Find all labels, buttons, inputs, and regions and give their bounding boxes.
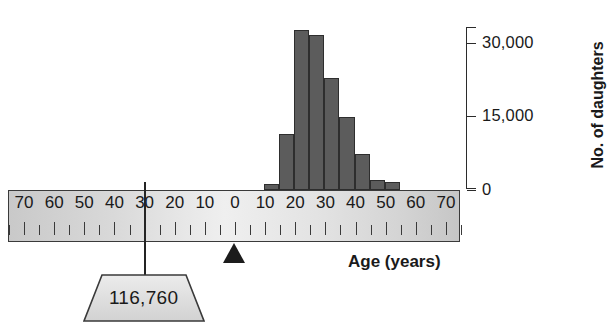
ruler-number: 40: [105, 194, 124, 211]
fulcrum-pivot-triangle-icon: [223, 243, 245, 263]
ruler-tick-minor: [371, 225, 372, 235]
ruler-tick-minor: [431, 225, 432, 235]
weight-value-label: 116,760: [83, 274, 205, 322]
ruler-tick-major: [295, 222, 296, 235]
ruler-tick-minor: [160, 225, 161, 235]
histogram-bar: [370, 180, 385, 190]
ruler-number: 60: [45, 194, 64, 211]
ruler-tick-minor: [39, 225, 40, 235]
histogram-bar: [385, 182, 400, 190]
ruler-tick-major: [416, 222, 417, 235]
ruler-tick-minor: [310, 225, 311, 235]
ruler-tick-major: [24, 222, 25, 235]
ruler-tick-minor: [190, 225, 191, 235]
fulcrum-stem: [144, 182, 146, 278]
histogram-bar: [294, 30, 309, 190]
ruler-tick-major: [175, 222, 176, 235]
ruler-number: 50: [75, 194, 94, 211]
x-axis-title: Age (years): [348, 252, 441, 272]
ruler-tick-major: [265, 222, 266, 235]
ruler-number: 0: [230, 194, 239, 211]
ruler-tick-major: [325, 222, 326, 235]
ruler-tick-major: [205, 222, 206, 235]
ruler-number: 70: [436, 194, 455, 211]
ruler-tick-major: [235, 222, 236, 235]
ruler-number: 10: [256, 194, 275, 211]
balance-beam-ruler: 70605040302010010203040506070: [8, 190, 460, 242]
y-axis-tick: [467, 116, 476, 117]
ruler-tick-major: [386, 222, 387, 235]
ruler-tick-minor: [220, 225, 221, 235]
y-axis-tick-label: 15,000: [482, 106, 534, 125]
ruler-number: 20: [165, 194, 184, 211]
histogram-bar: [309, 35, 324, 190]
ruler-tick-minor: [99, 225, 100, 235]
histogram-bar: [355, 154, 370, 190]
ruler-tick-minor: [401, 225, 402, 235]
y-axis-tick: [467, 190, 476, 191]
ruler-number: 60: [406, 194, 425, 211]
ruler-number: 50: [376, 194, 395, 211]
ruler-tick-minor: [69, 225, 70, 235]
y-axis-tick-label: 0: [482, 180, 491, 199]
ruler-number: 20: [286, 194, 305, 211]
ruler-tick-major: [54, 222, 55, 235]
ruler-number: 30: [316, 194, 335, 211]
ruler-number: 10: [195, 194, 214, 211]
ruler-tick-minor: [250, 225, 251, 235]
ruler-tick-minor: [461, 225, 462, 235]
histogram-bar: [324, 78, 339, 190]
ruler-number: 40: [346, 194, 365, 211]
ruler-tick-minor: [280, 225, 281, 235]
ruler-number: 70: [15, 194, 34, 211]
ruler-tick-major: [356, 222, 357, 235]
histogram-bar: [279, 134, 294, 190]
y-axis-tick: [467, 43, 476, 44]
histogram-bar: [339, 117, 354, 190]
ruler-tick-minor: [9, 225, 10, 235]
weight-trapezoid: 116,760: [83, 274, 205, 322]
y-axis-title: No. of daughters: [589, 41, 607, 168]
y-axis-tick-label: 30,000: [482, 32, 534, 51]
ruler-tick-major: [84, 222, 85, 235]
ruler-tick-major: [114, 222, 115, 235]
ruler-tick-minor: [130, 225, 131, 235]
y-axis: [466, 27, 476, 189]
ruler-tick-minor: [340, 225, 341, 235]
ruler-tick-major: [446, 222, 447, 235]
